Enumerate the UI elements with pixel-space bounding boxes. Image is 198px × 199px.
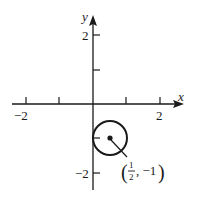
center-label: ( 1 2 , −1 ) bbox=[121, 160, 165, 184]
coordinate-plane: x y −2 2 2 −2 ( 1 2 , −1 ) bbox=[0, 0, 198, 199]
y-tick-label-neg2: −2 bbox=[75, 166, 89, 181]
x-tick-label-neg2: −2 bbox=[14, 108, 28, 123]
center-label-close-paren: ) bbox=[158, 161, 165, 184]
center-label-rest: , −1 bbox=[136, 163, 156, 178]
center-label-denominator: 2 bbox=[129, 172, 134, 182]
y-axis-label: y bbox=[80, 9, 88, 24]
center-label-open-paren: ( bbox=[121, 161, 128, 184]
center-label-numerator: 1 bbox=[129, 160, 134, 170]
y-tick-label-pos2: 2 bbox=[82, 28, 89, 43]
x-axis-label: x bbox=[177, 89, 184, 104]
circle-center-dot bbox=[107, 135, 112, 140]
x-tick-label-pos2: 2 bbox=[156, 108, 163, 123]
